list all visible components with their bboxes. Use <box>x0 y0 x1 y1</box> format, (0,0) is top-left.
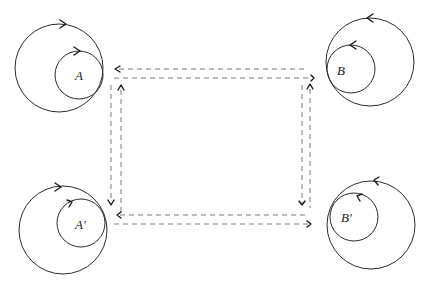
node-a: A <box>15 20 103 112</box>
node-b-prime-label: B′ <box>341 210 352 225</box>
arrow-down-icon <box>108 200 114 205</box>
arrow-up-icon <box>307 84 313 89</box>
edge-b-prime-to-b <box>307 84 313 208</box>
node-a-prime: A′ <box>19 183 107 274</box>
edge-b-prime-to-a-prime <box>117 212 308 218</box>
commutative-diagram: A B A′ B′ <box>0 0 430 288</box>
edge-b-to-a <box>115 66 307 72</box>
node-b: B <box>326 14 414 106</box>
edge-a-to-b <box>114 75 314 81</box>
node-b-label: B <box>337 63 345 78</box>
node-a-prime-outer-circle <box>19 186 107 274</box>
node-b-prime-inner-circle <box>330 193 378 241</box>
node-b-prime: B′ <box>327 177 415 269</box>
node-a-outer-circle <box>15 24 103 112</box>
arrow-up-icon <box>118 85 124 90</box>
node-a-label: A <box>74 68 83 83</box>
node-b-outer-circle <box>326 18 414 106</box>
node-b-prime-outer-circle <box>327 181 415 269</box>
edge-a-to-a-prime <box>108 85 114 205</box>
edge-b-to-b-prime <box>299 85 305 205</box>
arrow-head-icon <box>357 194 362 201</box>
node-b-inner-circle <box>327 45 375 93</box>
node-a-prime-label: A′ <box>74 217 86 232</box>
edge-a-prime-to-b-prime <box>114 221 311 227</box>
arrow-right-icon <box>311 75 314 81</box>
edge-a-prime-to-a <box>118 85 124 212</box>
